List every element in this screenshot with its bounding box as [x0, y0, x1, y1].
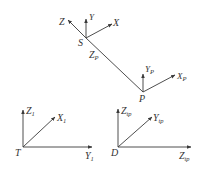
d-y-axis: [118, 117, 152, 147]
s-x-label: X: [113, 18, 119, 28]
t-y-label: Y1: [85, 151, 94, 163]
p-origin-label: P: [139, 94, 145, 104]
d-ztp-label: Ztp: [179, 151, 190, 163]
t-origin-label: T: [15, 148, 21, 158]
p-y-label: YP: [145, 65, 154, 76]
s-z-axis: [68, 20, 86, 38]
d-origin-label: D: [111, 148, 118, 158]
t-x-axis: [23, 117, 55, 147]
p-x-label: XP: [177, 72, 186, 83]
d-y-label: Ytp: [153, 113, 164, 125]
p-x-axis: [143, 75, 175, 92]
coordinate-frames-diagram: Z Y X S ZP YP XP P Z1 X1 T Y1 Ztp Ytp D …: [0, 0, 202, 172]
s-y-label: Y: [89, 13, 94, 22]
d-z-label: Ztp: [121, 106, 132, 118]
s-origin-label: S: [78, 38, 83, 48]
diagram-lines: [0, 0, 202, 172]
link-zp-label: ZP: [89, 50, 99, 62]
s-p-link: [86, 38, 143, 92]
t-z-label: Z1: [26, 106, 35, 118]
s-x-axis: [86, 24, 112, 38]
t-x-label: X1: [57, 113, 66, 125]
s-z-label: Z: [59, 17, 65, 27]
